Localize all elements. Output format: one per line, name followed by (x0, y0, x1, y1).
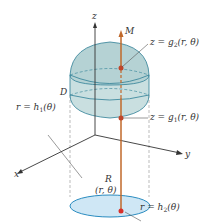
R-label: R (105, 175, 112, 184)
region-R (70, 195, 150, 217)
outer-curve-suffix: (θ) (167, 202, 179, 212)
lower-surface-label: z = g1(r, θ) (150, 113, 199, 123)
inner-curve-suffix: (θ) (43, 102, 55, 112)
lower-point (119, 116, 124, 121)
M-arrow-icon (119, 30, 124, 37)
cylindrical-region-diagram: z M z = g2(r, θ) D r = h1(θ) z = g1(r, θ… (0, 0, 215, 222)
z-axis-arrow-icon (93, 22, 97, 28)
upper-surface-label: z = g2(r, θ) (150, 38, 199, 48)
x-axis-line (20, 135, 95, 172)
outer-curve-prefix: r = h (140, 202, 163, 212)
lower-surface-prefix: z = g (150, 112, 174, 122)
upper-surface-prefix: z = g (150, 37, 174, 47)
inner-curve-prefix: r = h (16, 102, 39, 112)
leader-h1 (48, 135, 82, 178)
lower-surface-suffix: (r, θ) (178, 112, 199, 122)
outer-curve-label: r = h2(θ) (140, 203, 180, 213)
D-label: D (60, 88, 67, 97)
point-label: (r, θ) (95, 186, 116, 195)
inner-curve-label: r = h1(θ) (16, 103, 56, 113)
y-axis-label: y (185, 150, 190, 159)
x-axis-label: x (14, 170, 19, 179)
z-axis-label: z (92, 12, 97, 21)
y-axis-line (95, 135, 180, 153)
base-point (119, 209, 124, 214)
y-axis-arrow-icon (176, 150, 183, 155)
upper-surface-suffix: (r, θ) (178, 37, 199, 47)
M-label: M (125, 27, 134, 36)
